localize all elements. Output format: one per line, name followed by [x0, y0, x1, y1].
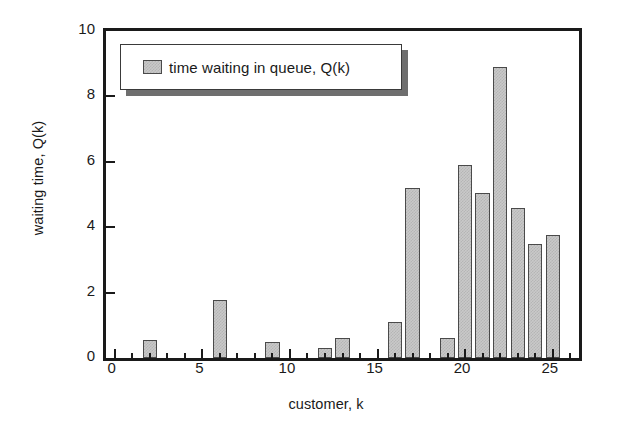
- y-tick-label: 8: [87, 86, 95, 101]
- x-tick-mark-minor: [184, 353, 186, 358]
- x-tick-mark: [552, 349, 554, 358]
- x-tick-mark-minor: [394, 353, 396, 358]
- x-tick-mark: [377, 349, 379, 358]
- x-axis-title: customer, k: [0, 396, 638, 412]
- x-tick-label: 15: [355, 360, 395, 375]
- bar: [475, 193, 489, 358]
- x-tick-mark-minor: [534, 353, 536, 358]
- bar: [511, 208, 525, 358]
- x-tick-mark: [201, 349, 203, 358]
- bar: [493, 67, 507, 358]
- y-tick-label: 10: [78, 21, 95, 36]
- x-axis-title-text: customer, k: [288, 396, 363, 412]
- x-tick-mark-minor: [236, 353, 238, 358]
- x-tick-mark-minor: [306, 353, 308, 358]
- x-tick-mark: [114, 349, 116, 358]
- bar: [405, 188, 419, 358]
- x-tick-mark-minor: [131, 353, 133, 358]
- x-tick-label: 20: [442, 360, 482, 375]
- x-tick-mark: [464, 349, 466, 358]
- y-tick-mark: [106, 292, 115, 294]
- chart-figure: waiting time, Q(k) 0246810 0510152025 cu…: [0, 0, 638, 428]
- legend-box: time waiting in queue, Q(k): [120, 44, 402, 90]
- x-tick-mark-minor: [219, 353, 221, 358]
- x-tick-label: 0: [92, 360, 132, 375]
- legend-swatch-icon: [143, 60, 162, 74]
- y-tick-label: 2: [87, 283, 95, 298]
- legend-label: time waiting in queue, Q(k): [169, 59, 350, 76]
- bar: [458, 165, 472, 358]
- y-axis-title: waiting time, Q(k): [30, 48, 46, 308]
- x-tick-mark-minor: [166, 353, 168, 358]
- x-tick-label: 10: [267, 360, 307, 375]
- x-tick-mark-minor: [447, 353, 449, 358]
- x-tick-label: 5: [179, 360, 219, 375]
- y-tick-mark: [106, 161, 115, 163]
- x-tick-mark-minor: [271, 353, 273, 358]
- x-tick-mark-minor: [342, 353, 344, 358]
- x-tick-mark-minor: [149, 353, 151, 358]
- bar: [546, 235, 560, 358]
- x-tick-mark-minor: [569, 353, 571, 358]
- x-tick-mark-minor: [412, 353, 414, 358]
- x-tick-mark-minor: [517, 353, 519, 358]
- x-tick-mark-minor: [482, 353, 484, 358]
- y-tick-label: 6: [87, 152, 95, 167]
- x-tick-mark-minor: [429, 353, 431, 358]
- x-tick-mark: [289, 349, 291, 358]
- y-tick-label: 4: [87, 217, 95, 232]
- y-tick-mark: [106, 95, 115, 97]
- x-tick-mark-minor: [254, 353, 256, 358]
- bar: [528, 244, 542, 358]
- bar: [213, 300, 227, 358]
- x-tick-mark-minor: [324, 353, 326, 358]
- x-tick-mark-minor: [499, 353, 501, 358]
- x-tick-mark-minor: [359, 353, 361, 358]
- x-tick-label: 25: [530, 360, 570, 375]
- y-tick-mark: [106, 226, 115, 228]
